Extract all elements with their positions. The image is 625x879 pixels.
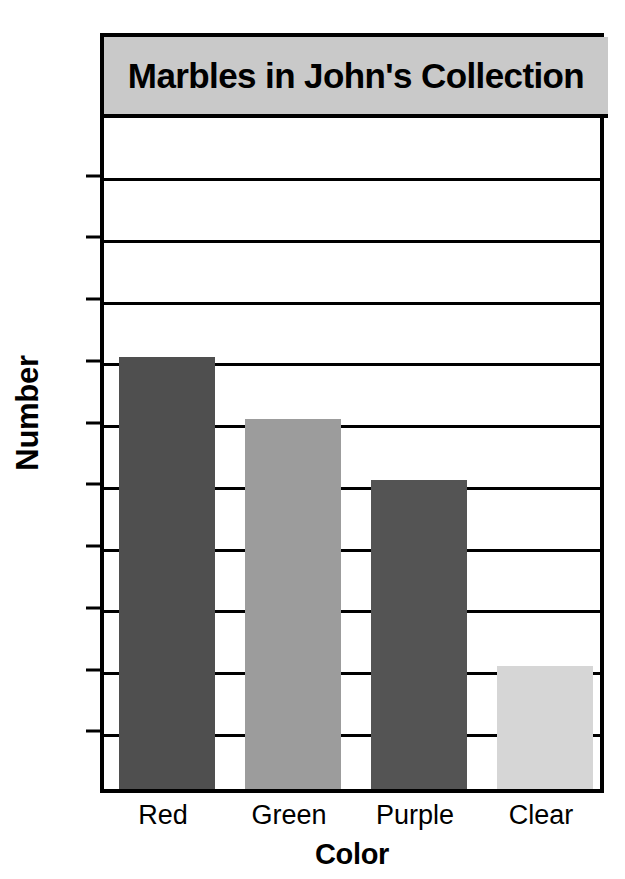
bar-clear xyxy=(497,666,593,789)
y-tick-mark xyxy=(86,298,100,301)
x-tick-label-red: Red xyxy=(138,800,188,831)
chart-title-banner: Marbles in John's Collection xyxy=(104,37,608,118)
y-tick-mark xyxy=(86,668,100,671)
y-tick-mark xyxy=(86,359,100,362)
x-tick-label-purple: Purple xyxy=(376,800,454,831)
bar-green xyxy=(245,419,341,789)
y-tick-mark xyxy=(86,606,100,609)
bar-chart-figure: Number 0246810121416182022 Marbles in Jo… xyxy=(0,0,625,879)
y-tick-mark xyxy=(86,483,100,486)
bar-red xyxy=(119,357,215,789)
y-tick-mark xyxy=(86,236,100,239)
x-tick-label-clear: Clear xyxy=(509,800,574,831)
y-axis-title: Number xyxy=(8,333,48,493)
x-axis-title: Color xyxy=(100,838,604,871)
gridline xyxy=(104,240,600,243)
y-tick-mark xyxy=(86,174,100,177)
gridline xyxy=(104,302,600,305)
gridline xyxy=(104,178,600,181)
chart-title: Marbles in John's Collection xyxy=(128,56,584,96)
bar-purple xyxy=(371,480,467,789)
plot-frame: Marbles in John's Collection xyxy=(100,33,604,793)
x-tick-label-green: Green xyxy=(251,800,326,831)
y-tick-mark xyxy=(86,421,100,424)
y-tick-mark xyxy=(86,545,100,548)
plot-area xyxy=(104,118,600,789)
y-tick-mark xyxy=(86,730,100,733)
